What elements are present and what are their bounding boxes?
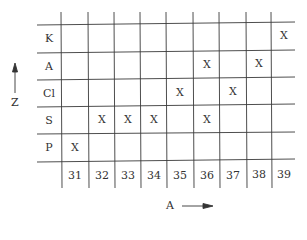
a-axis-label: A	[166, 199, 174, 212]
mark-k-39: X	[271, 30, 297, 42]
mark-p-31: X	[62, 142, 88, 154]
mark-cl-37: X	[220, 86, 246, 98]
mark-s-33: X	[115, 114, 141, 126]
a-axis-arrow	[182, 204, 213, 209]
z-axis-label: Z	[11, 96, 19, 109]
col-label-34: 34	[141, 170, 167, 182]
row-label-s: S	[37, 115, 61, 127]
mark-s-36: X	[194, 114, 220, 126]
col-label-32: 32	[89, 170, 115, 182]
mark-s-32: X	[89, 114, 115, 126]
col-label-38: 38	[246, 169, 272, 181]
row-label-a: A	[37, 61, 61, 73]
mark-cl-35: X	[167, 87, 193, 99]
z-axis-arrow	[13, 63, 18, 93]
mark-s-34: X	[141, 114, 167, 126]
col-label-39: 39	[271, 169, 297, 181]
row-label-p: P	[37, 142, 61, 154]
col-label-37: 37	[220, 170, 246, 182]
col-label-36: 36	[194, 170, 220, 182]
col-label-31: 31	[62, 170, 88, 182]
col-label-33: 33	[115, 170, 141, 182]
row-label-cl: Cl	[37, 88, 61, 100]
row-label-k: K	[37, 33, 61, 45]
mark-a-36: X	[194, 59, 220, 71]
mark-a-38: X	[246, 58, 272, 70]
col-label-35: 35	[167, 170, 193, 182]
